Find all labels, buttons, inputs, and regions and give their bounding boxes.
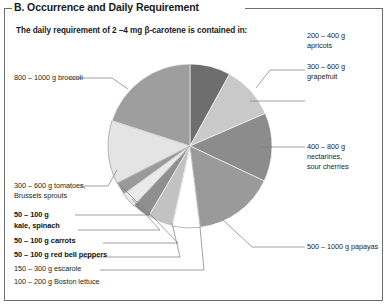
label-nectarines-line2: nectarines, xyxy=(307,152,342,161)
label-kale-line1: 50 – 100 g xyxy=(14,210,49,219)
label-red-bell-peppers: 50 – 100 g red bell peppers xyxy=(14,250,107,259)
frame-border-top-right xyxy=(245,8,383,9)
label-kale-line2: kale, spinach xyxy=(14,221,60,230)
label-grapefruit-line1: 300 – 600 g xyxy=(307,62,345,71)
panel-subtitle: The daily requirement of 2 –4 mg β-carot… xyxy=(16,26,247,35)
frame-border-bottom xyxy=(4,300,383,301)
label-escarole: 150 – 300 g escarole xyxy=(14,264,81,273)
label-nectarines-line3: sour cherries xyxy=(307,162,349,171)
label-tomatoes-line1: 300 – 600 g tomatoes, xyxy=(14,181,86,190)
label-carrots: 50 – 100 g carrots xyxy=(14,236,76,245)
label-apricots-line2: apricots xyxy=(307,41,332,50)
frame-border-top-left xyxy=(4,8,12,9)
frame-border-left xyxy=(4,8,5,301)
label-nectarines-line1: 400 – 800 g xyxy=(307,142,345,151)
label-apricots-line1: 200 – 400 g xyxy=(307,31,345,40)
frame-border-right xyxy=(382,8,383,301)
label-papayas: 500 – 1000 g papayas xyxy=(307,242,378,251)
label-grapefruit-line2: grapefruit xyxy=(307,72,337,81)
label-boston-lettuce: 100 – 200 g Boston lettuce xyxy=(14,277,100,286)
label-tomatoes-line2: Brussels sprouts xyxy=(14,191,67,200)
label-broccoli: 800 – 1000 g broccoli xyxy=(14,73,83,82)
panel-title: B. Occurrence and Daily Requirement xyxy=(14,0,199,14)
